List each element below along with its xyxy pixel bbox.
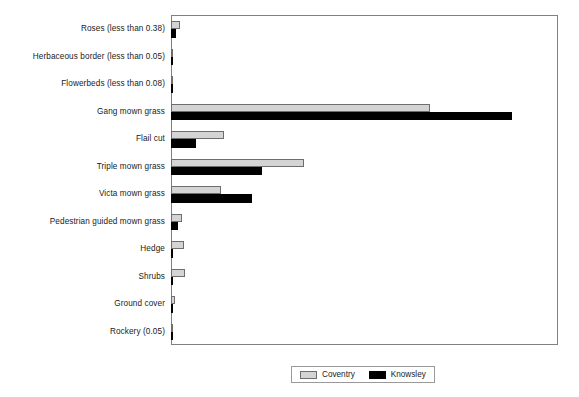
bar-group <box>171 153 558 181</box>
bar-coventry <box>171 214 182 222</box>
bar-coventry <box>171 104 430 112</box>
bar-coventry <box>171 21 180 29</box>
bar-coventry <box>171 241 184 249</box>
bar-knowsley <box>171 139 196 147</box>
bar-knowsley <box>171 167 262 175</box>
bar-knowsley <box>171 29 176 37</box>
bar-group <box>171 15 558 43</box>
bar-group <box>171 318 558 346</box>
bar-group <box>171 98 558 126</box>
bar-knowsley <box>171 57 173 65</box>
bar-knowsley <box>171 222 178 230</box>
bar-group <box>171 208 558 236</box>
bar-coventry <box>171 131 224 139</box>
bar-coventry <box>171 269 185 277</box>
category-label: Herbaceous border (less than 0.05) <box>0 43 165 71</box>
bar-group <box>171 180 558 208</box>
bar-group <box>171 235 558 263</box>
bar-group <box>171 263 558 291</box>
category-label: Gang mown grass <box>0 98 165 126</box>
bar-coventry <box>171 324 173 332</box>
bar-coventry <box>171 186 221 194</box>
category-label: Triple mown grass <box>0 153 165 181</box>
coventry-swatch <box>300 371 317 379</box>
category-label: Rockery (0.05) <box>0 318 165 346</box>
bar-knowsley <box>171 84 173 92</box>
bar-knowsley <box>171 277 173 285</box>
category-axis-labels: Roses (less than 0.38)Herbaceous border … <box>0 15 165 345</box>
bar-coventry <box>171 296 175 304</box>
bar-group <box>171 125 558 153</box>
category-label: Flail cut <box>0 125 165 153</box>
bar-knowsley <box>171 304 173 312</box>
category-label: Shrubs <box>0 263 165 291</box>
category-label: Ground cover <box>0 290 165 318</box>
bar-knowsley <box>171 332 173 340</box>
bars-layer <box>171 15 558 345</box>
category-label: Pedestrian guided mown grass <box>0 208 165 236</box>
knowsley-swatch <box>369 371 386 379</box>
legend-label: Coventry <box>322 370 355 379</box>
horizontal-bar-chart: Roses (less than 0.38)Herbaceous border … <box>0 0 579 397</box>
bar-knowsley <box>171 112 512 120</box>
category-label: Victa mown grass <box>0 180 165 208</box>
chart-legend: CoventryKnowsley <box>291 366 435 383</box>
legend-item: Knowsley <box>369 370 426 379</box>
category-label: Flowerbeds (less than 0.08) <box>0 70 165 98</box>
bar-group <box>171 70 558 98</box>
bar-coventry <box>171 159 304 167</box>
legend-item: Coventry <box>300 370 355 379</box>
bar-knowsley <box>171 194 252 202</box>
legend-label: Knowsley <box>391 370 426 379</box>
bar-group <box>171 43 558 71</box>
bar-coventry <box>171 49 173 57</box>
bar-coventry <box>171 76 173 84</box>
bar-group <box>171 290 558 318</box>
bar-knowsley <box>171 249 173 257</box>
category-label: Roses (less than 0.38) <box>0 15 165 43</box>
category-label: Hedge <box>0 235 165 263</box>
